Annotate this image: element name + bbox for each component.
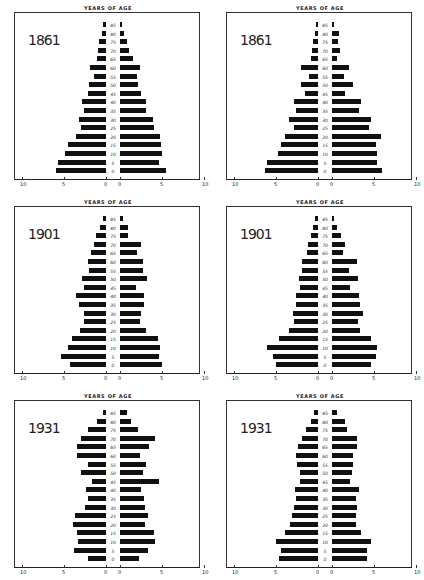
- bar-right-age-75: [120, 427, 138, 432]
- age-label: 25: [106, 320, 120, 325]
- age-label: 55: [318, 75, 332, 80]
- age-label: 65: [106, 57, 120, 62]
- bar-left-age-10: [68, 345, 106, 350]
- bar-right-age-30: [332, 505, 357, 510]
- age-label: 75: [318, 428, 332, 433]
- tick-mark: [204, 565, 205, 568]
- bar-left-age-5: [61, 354, 106, 359]
- bar-right-age-25: [120, 125, 154, 130]
- age-label: 5: [318, 549, 332, 554]
- bar-left-age-0: [70, 362, 106, 367]
- bar-left-age-40: [294, 99, 318, 104]
- bar-right-age-70: [332, 48, 340, 53]
- bar-right-age-60: [332, 65, 349, 70]
- bar-left-age-75: [99, 39, 106, 44]
- age-label: 10: [106, 540, 120, 545]
- bar-right-age-5: [332, 548, 367, 553]
- bar-right-age-25: [120, 513, 148, 518]
- x-tick-right: 5: [372, 569, 375, 575]
- age-label: 80: [318, 32, 332, 37]
- bar-left-age-35: [84, 108, 106, 113]
- x-tick-right: 0: [330, 375, 333, 381]
- bar-left-age-20: [76, 134, 106, 139]
- age-label: 75: [318, 234, 332, 239]
- age-label: 10: [318, 346, 332, 351]
- bar-right-age-40: [332, 487, 359, 492]
- x-tick-left: 5: [274, 569, 277, 575]
- bar-left-age-60: [296, 453, 318, 458]
- bar-left-age-25: [84, 319, 106, 324]
- bar-left-age-45: [300, 285, 318, 290]
- tick-mark: [120, 371, 121, 374]
- tick-mark: [64, 565, 65, 568]
- bar-right-age-15: [332, 530, 361, 535]
- age-label: 25: [106, 126, 120, 131]
- bar-left-age-45: [88, 91, 106, 96]
- bar-right-age-75: [332, 39, 338, 44]
- bar-left-age-15: [285, 530, 318, 535]
- x-tick-right: 10: [202, 181, 208, 187]
- bar-left-age-0: [88, 556, 106, 561]
- bar-right-age-55: [332, 74, 344, 79]
- x-tick-right: 0: [330, 181, 333, 187]
- x-tick-left: 0: [316, 375, 319, 381]
- bar-left-age-55: [297, 462, 318, 467]
- age-label: 45: [318, 480, 332, 485]
- pyramid-panel-4: YEARS OF AGE1901051015202530354045505560…: [220, 198, 420, 383]
- axis-header: YEARS OF AGE: [8, 199, 208, 205]
- bar-left-age-80: [311, 419, 318, 424]
- age-label: 5: [106, 549, 120, 554]
- x-tick-right: 0: [330, 569, 333, 575]
- bar-right-age-85: [120, 216, 123, 221]
- bar-right-age-15: [120, 530, 154, 535]
- bar-right-age-10: [120, 539, 155, 544]
- age-label: 60: [106, 454, 120, 459]
- age-label: 30: [106, 312, 120, 317]
- age-label: 10: [318, 152, 332, 157]
- bar-left-age-25: [81, 125, 106, 130]
- age-label: 70: [106, 437, 120, 442]
- x-tick-left: 10: [20, 569, 26, 575]
- bar-left-age-0: [56, 168, 106, 173]
- bar-left-age-40: [295, 487, 318, 492]
- age-label: 40: [318, 100, 332, 105]
- bar-left-age-0: [276, 362, 318, 367]
- pyramid-panel-1: YEARS OF AGE1861051015202530354045505560…: [8, 4, 208, 189]
- age-label: 30: [318, 312, 332, 317]
- x-tick-left: 0: [104, 375, 107, 381]
- pyramid-panel-6: YEARS OF AGE1931051015202530354045505560…: [220, 392, 420, 577]
- age-label: 5: [318, 355, 332, 360]
- bar-left-age-50: [89, 82, 106, 87]
- age-label: 65: [318, 251, 332, 256]
- bar-left-age-5: [281, 548, 318, 553]
- years-of-age-label: YEARS OF AGE: [294, 5, 346, 11]
- x-tick-left: 0: [104, 569, 107, 575]
- bar-right-age-0: [332, 362, 371, 367]
- bar-left-age-35: [88, 496, 106, 501]
- age-label: 75: [106, 234, 120, 239]
- bar-left-age-75: [96, 233, 106, 238]
- bar-left-age-60: [88, 259, 106, 264]
- bar-right-age-65: [332, 250, 343, 255]
- age-label: 35: [106, 109, 120, 114]
- age-label: 85: [106, 411, 120, 416]
- x-tick-right: 5: [160, 181, 163, 187]
- bar-right-age-70: [120, 48, 129, 53]
- year-label: 1861: [240, 32, 272, 48]
- x-tick-left: 10: [232, 569, 238, 575]
- bar-right-age-45: [332, 479, 350, 484]
- age-label: 85: [318, 411, 332, 416]
- bar-left-age-45: [305, 91, 318, 96]
- age-label: 60: [106, 66, 120, 71]
- age-label: 85: [318, 217, 332, 222]
- age-label: 45: [106, 480, 120, 485]
- bar-right-age-80: [332, 225, 337, 230]
- x-tick-right: 0: [118, 375, 121, 381]
- bar-right-age-0: [120, 556, 139, 561]
- axis-header: YEARS OF AGE: [8, 393, 208, 399]
- age-label: 35: [318, 109, 332, 114]
- tick-mark: [276, 565, 277, 568]
- bar-right-age-10: [120, 345, 160, 350]
- bar-right-age-5: [120, 354, 159, 359]
- age-label: 20: [106, 329, 120, 334]
